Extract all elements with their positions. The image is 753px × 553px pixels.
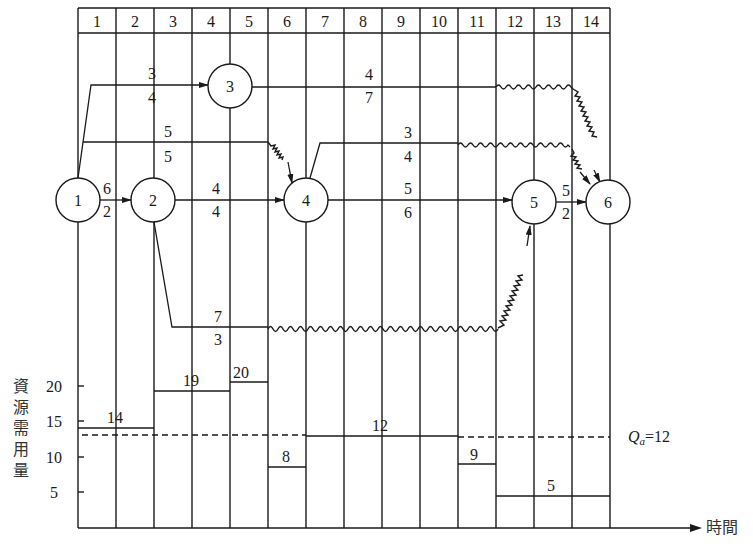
label-5-6-resource: 2 bbox=[562, 205, 570, 222]
x-axis-label: 時間 bbox=[706, 518, 738, 537]
y-tick-15: 15 bbox=[46, 413, 62, 430]
label-1-3-duration: 3 bbox=[148, 65, 156, 82]
col-7: 7 bbox=[321, 13, 329, 30]
svg-text:量: 量 bbox=[13, 461, 29, 480]
y-tick-20: 20 bbox=[46, 378, 62, 395]
col-10: 10 bbox=[431, 13, 447, 30]
col-12: 12 bbox=[507, 13, 523, 30]
node-4: 4 bbox=[284, 178, 328, 222]
svg-text:6: 6 bbox=[604, 194, 612, 211]
activity-2-5 bbox=[154, 222, 268, 327]
svg-text:資: 資 bbox=[13, 377, 29, 396]
label-2-4-resource: 4 bbox=[212, 203, 220, 220]
svg-text:2: 2 bbox=[149, 192, 157, 209]
svg-text:需: 需 bbox=[13, 419, 29, 438]
col-8: 8 bbox=[359, 13, 367, 30]
node-2: 2 bbox=[131, 178, 175, 222]
label-1-4-duration: 5 bbox=[164, 123, 172, 140]
svg-text:用: 用 bbox=[13, 440, 29, 459]
node-6: 6 bbox=[586, 180, 630, 224]
svg-text:3: 3 bbox=[226, 78, 234, 95]
label-1-2-duration: 6 bbox=[103, 180, 111, 197]
x-axis-arrow-icon bbox=[690, 524, 702, 532]
resource-histogram: 20 15 10 5 資 源 需 用 量 14 19 20 8 12 9 5 Q… bbox=[13, 364, 738, 537]
col-11: 11 bbox=[469, 13, 484, 30]
activity-4-6 bbox=[310, 143, 458, 178]
label-3-6-duration: 4 bbox=[365, 66, 373, 83]
label-1-2-resource: 2 bbox=[103, 203, 111, 220]
activity-1-3 bbox=[78, 85, 208, 178]
col-13: 13 bbox=[545, 13, 561, 30]
free-float-4-6 bbox=[458, 143, 570, 147]
level-label-14: 14 bbox=[107, 409, 123, 426]
free-float-1-4 bbox=[268, 142, 283, 160]
col-14: 14 bbox=[583, 13, 599, 30]
node-3: 3 bbox=[208, 64, 252, 108]
label-1-3-resource: 4 bbox=[148, 89, 156, 106]
limit-label: Qa=12 bbox=[628, 428, 670, 447]
label-2-5-resource: 3 bbox=[214, 331, 222, 348]
y-axis-label: 資 源 需 用 量 bbox=[13, 377, 29, 480]
column-labels: 1 2 3 4 5 6 7 8 9 10 11 12 13 14 bbox=[93, 13, 599, 30]
y-tick-10: 10 bbox=[46, 449, 62, 466]
label-2-4-duration: 4 bbox=[212, 180, 220, 197]
node-1: 1 bbox=[56, 178, 100, 222]
col-6: 6 bbox=[283, 13, 291, 30]
level-label-20: 20 bbox=[233, 364, 249, 381]
time-scaled-network-diagram: 1 2 3 4 5 6 7 8 9 10 11 12 13 14 bbox=[0, 0, 753, 553]
label-4-6-resource: 4 bbox=[404, 148, 412, 165]
col-2: 2 bbox=[131, 13, 139, 30]
col-3: 3 bbox=[169, 13, 177, 30]
level-label-8: 8 bbox=[282, 448, 290, 465]
node-5: 5 bbox=[512, 180, 556, 224]
free-float-2-5-diagonal bbox=[498, 275, 523, 328]
label-4-5-duration: 5 bbox=[404, 180, 412, 197]
svg-text:5: 5 bbox=[530, 194, 538, 211]
level-label-5: 5 bbox=[547, 477, 555, 494]
label-1-4-resource: 5 bbox=[164, 148, 172, 165]
free-float-2-5 bbox=[268, 327, 498, 332]
svg-text:源: 源 bbox=[13, 398, 29, 417]
col-4: 4 bbox=[207, 13, 215, 30]
label-4-6-duration: 3 bbox=[404, 124, 412, 141]
level-label-12: 12 bbox=[372, 417, 388, 434]
y-tick-5: 5 bbox=[50, 484, 58, 501]
col-1: 1 bbox=[93, 13, 101, 30]
level-label-19: 19 bbox=[183, 372, 199, 389]
col-9: 9 bbox=[397, 13, 405, 30]
label-4-5-resource: 6 bbox=[404, 204, 412, 221]
free-float-3-6-diagonal bbox=[573, 89, 597, 137]
svg-text:4: 4 bbox=[302, 192, 310, 209]
col-5: 5 bbox=[245, 13, 253, 30]
label-2-5-duration: 7 bbox=[214, 308, 222, 325]
svg-text:1: 1 bbox=[74, 192, 82, 209]
level-label-9: 9 bbox=[470, 446, 478, 463]
label-3-6-resource: 7 bbox=[365, 89, 373, 106]
label-5-6-duration: 5 bbox=[562, 182, 570, 199]
